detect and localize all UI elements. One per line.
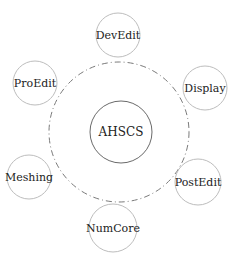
satellite-node-meshing: Meshing (5, 155, 53, 199)
satellite-node-proedit: ProEdit (13, 61, 57, 105)
satellite-node-postedit: PostEdit (175, 159, 222, 205)
satellite-label: PostEdit (175, 176, 222, 189)
satellite-node-display: Display (183, 66, 227, 110)
satellite-node-devedit: DevEdit (96, 13, 141, 57)
satellite-label: ProEdit (14, 77, 57, 90)
satellite-label: DevEdit (96, 29, 141, 42)
satellite-label: Display (184, 82, 226, 95)
diagram-canvas: AHSCS DevEdit Display PostEdit NumCore M… (0, 0, 233, 258)
satellite-node-numcore: NumCore (86, 204, 140, 252)
satellite-label: Meshing (5, 171, 53, 184)
satellite-label: NumCore (86, 222, 140, 235)
center-node-label: AHSCS (98, 125, 144, 139)
center-node: AHSCS (90, 101, 152, 163)
